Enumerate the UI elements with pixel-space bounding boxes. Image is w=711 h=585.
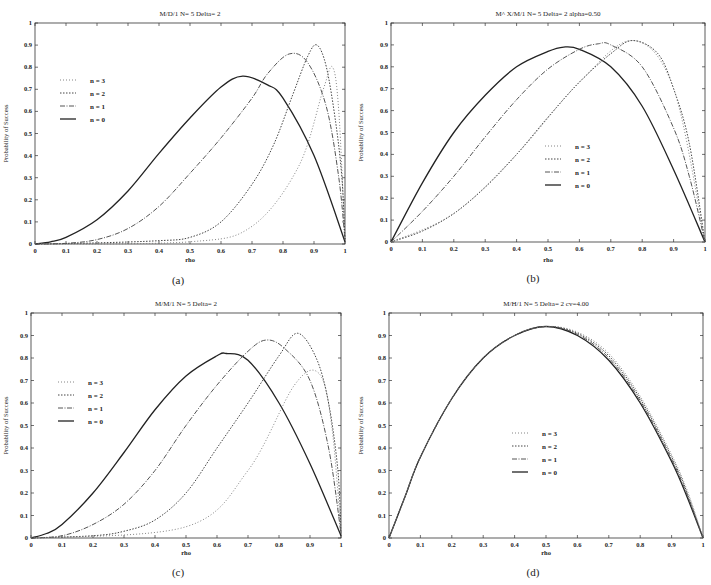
- x-tick-label: 0.6: [217, 247, 226, 254]
- y-tick-label: 0.8: [380, 63, 389, 70]
- y-tick-label: 0.3: [20, 467, 29, 474]
- x-tick-label: 0.7: [248, 247, 257, 254]
- x-axis-label: rho: [543, 256, 553, 263]
- legend-label: n = 2: [542, 443, 557, 451]
- caption-a: (a): [158, 274, 198, 286]
- y-tick-label: 0.4: [380, 150, 389, 157]
- series-line: [35, 53, 345, 244]
- x-tick-label: 0.5: [542, 541, 551, 548]
- x-tick-label: 0.8: [275, 541, 284, 548]
- y-tick-label: 0.8: [20, 354, 29, 361]
- plot-d: M/H/1 N= 5 Delta= 2 cv=4.0000.10.20.30.4…: [355, 290, 711, 585]
- y-tick-label: 0.9: [378, 332, 387, 339]
- legend-label: n = 1: [88, 405, 103, 413]
- series-line: [391, 43, 705, 242]
- x-tick-label: 0.8: [279, 247, 288, 254]
- x-tick-label: 0.2: [89, 541, 97, 548]
- legend-label: n = 0: [575, 182, 590, 190]
- legend-label: n = 1: [575, 169, 590, 177]
- x-tick-label: 0: [389, 245, 392, 252]
- legend-label: n = 3: [90, 77, 105, 85]
- x-tick-label: 0.2: [450, 245, 458, 252]
- x-tick-label: 1: [339, 541, 342, 548]
- legend-label: n = 0: [542, 469, 557, 477]
- y-tick-label: 0.6: [380, 107, 389, 114]
- x-tick-label: 0.1: [62, 247, 70, 254]
- legend-label: n = 2: [88, 392, 103, 400]
- y-tick-label: 0.3: [378, 467, 387, 474]
- y-tick-label: 0.2: [20, 489, 28, 496]
- legend-label: n = 2: [90, 90, 105, 98]
- legend-label: n = 3: [542, 430, 557, 438]
- y-axis-label: Probability of Success: [357, 103, 364, 162]
- y-tick-label: 0.2: [380, 194, 388, 201]
- y-tick-label: 1: [385, 19, 388, 26]
- chart-panel-b: M^ X/M/1 N= 5 Delta= 2 alpha=0.5000.10.2…: [355, 0, 711, 290]
- chart-panel-a: M/D/1 N= 5 Delta= 200.10.20.30.40.50.60.…: [0, 0, 355, 290]
- y-tick-label: 0: [385, 238, 388, 245]
- y-tick-label: 0.2: [378, 489, 386, 496]
- y-tick-label: 0.1: [378, 512, 386, 519]
- y-tick-label: 0.7: [380, 85, 389, 92]
- x-tick-label: 0: [387, 541, 390, 548]
- x-axis-label: rho: [185, 256, 195, 263]
- y-tick-label: 0: [29, 240, 32, 247]
- legend-label: n = 1: [542, 456, 557, 464]
- series-line: [391, 47, 705, 242]
- x-tick-label: 0.9: [670, 245, 679, 252]
- chart-title: M/M/1 N= 5 Delta= 2: [155, 300, 217, 308]
- y-tick-label: 0.6: [20, 399, 29, 406]
- y-tick-label: 0.7: [24, 85, 33, 92]
- y-tick-label: 1: [29, 19, 32, 26]
- legend-label: n = 0: [88, 418, 103, 426]
- y-tick-label: 0.6: [24, 107, 33, 114]
- x-tick-label: 0.1: [58, 541, 66, 548]
- legend-label: n = 2: [575, 156, 590, 164]
- series-line: [31, 370, 341, 538]
- y-tick-label: 0.4: [24, 152, 33, 159]
- y-tick-label: 1: [383, 309, 386, 316]
- y-tick-label: 0: [383, 534, 386, 541]
- x-tick-label: 0.2: [448, 541, 456, 548]
- x-tick-label: 0.5: [182, 541, 191, 548]
- x-tick-label: 0.3: [479, 541, 488, 548]
- series-line: [35, 66, 345, 244]
- chart-title: M/H/1 N= 5 Delta= 2 cv=4.00: [503, 300, 589, 308]
- x-tick-label: 0.9: [306, 541, 315, 548]
- caption-d: (d): [513, 566, 553, 578]
- x-tick-label: 0.1: [418, 245, 426, 252]
- series-line: [35, 45, 345, 244]
- y-tick-label: 1: [25, 309, 28, 316]
- y-tick-label: 0.4: [20, 444, 29, 451]
- y-tick-label: 0: [25, 534, 28, 541]
- x-tick-label: 0: [29, 541, 32, 548]
- y-tick-label: 0.9: [20, 332, 29, 339]
- y-tick-label: 0.3: [24, 174, 33, 181]
- x-tick-label: 0.3: [124, 247, 133, 254]
- plot-frame: [35, 23, 345, 244]
- legend-label: n = 3: [88, 379, 103, 387]
- plot-b: M^ X/M/1 N= 5 Delta= 2 alpha=0.5000.10.2…: [355, 0, 711, 290]
- chart-panel-c: M/M/1 N= 5 Delta= 200.10.20.30.40.50.60.…: [0, 290, 355, 585]
- chart-title: M/D/1 N= 5 Delta= 2: [160, 10, 221, 18]
- y-tick-label: 0.7: [378, 377, 387, 384]
- y-tick-label: 0.5: [20, 422, 29, 429]
- y-tick-label: 0.5: [380, 129, 389, 136]
- x-tick-label: 0.7: [607, 245, 616, 252]
- y-tick-label: 0.8: [378, 354, 387, 361]
- x-tick-label: 0.4: [155, 247, 164, 254]
- x-tick-label: 0.2: [93, 247, 101, 254]
- x-tick-label: 0.3: [481, 245, 490, 252]
- legend-label: n = 0: [90, 116, 105, 124]
- x-tick-label: 0.6: [575, 245, 584, 252]
- x-tick-label: 1: [701, 541, 704, 548]
- x-tick-label: 0.4: [513, 245, 522, 252]
- x-tick-label: 0: [33, 247, 36, 254]
- y-tick-label: 0.7: [20, 377, 29, 384]
- y-tick-label: 0.2: [24, 196, 32, 203]
- x-tick-label: 0.9: [668, 541, 677, 548]
- x-axis-label: rho: [541, 549, 551, 556]
- plot-frame: [391, 23, 705, 242]
- x-tick-label: 0.5: [186, 247, 195, 254]
- series-line: [35, 76, 345, 244]
